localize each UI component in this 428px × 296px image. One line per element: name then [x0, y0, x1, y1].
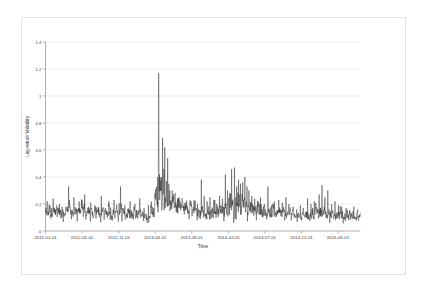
axis-labels-group: TimeLog-return Volatility	[25, 115, 209, 248]
x-tick-label: 2013-09-01	[180, 235, 203, 240]
gridlines-group	[46, 42, 361, 204]
y-tick-label: 0.4	[35, 175, 42, 180]
x-tick-label: 2014-02-01	[217, 235, 240, 240]
y-tick-label: 0.8	[35, 121, 42, 126]
y-tick-label: 1	[39, 94, 42, 99]
chart-canvas: 00.20.40.60.811.21.4 2012-01-012012-06-0…	[0, 0, 428, 296]
y-tick-label: 0.2	[35, 202, 42, 207]
y-tick-label: 1.2	[35, 67, 42, 72]
x-tick-label: 2015-05-01	[327, 235, 350, 240]
y-axis-title: Log-return Volatility	[25, 115, 30, 157]
x-tick-label: 2014-12-01	[290, 235, 313, 240]
x-axis-group: 2012-01-012012-06-012012-11-012013-04-01…	[34, 231, 360, 240]
x-axis-title: Time	[198, 244, 209, 249]
x-tick-label: 2014-07-01	[254, 235, 277, 240]
x-tick-label: 2012-06-01	[71, 235, 94, 240]
x-tick-label: 2012-01-01	[34, 235, 57, 240]
y-tick-label: 1.4	[35, 40, 42, 45]
volatility-line-chart: 00.20.40.60.811.21.4 2012-01-012012-06-0…	[0, 0, 428, 296]
x-tick-label: 2012-11-01	[108, 235, 131, 240]
y-tick-label: 0.6	[35, 148, 42, 153]
x-tick-label: 2013-04-01	[144, 235, 167, 240]
y-tick-label: 0	[39, 229, 42, 234]
figure-root: 00.20.40.60.811.21.4 2012-01-012012-06-0…	[0, 0, 428, 296]
y-axis-group: 00.20.40.60.811.21.4	[35, 40, 45, 234]
